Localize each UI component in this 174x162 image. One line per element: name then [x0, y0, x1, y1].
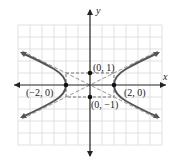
hyperbola-graph: [0, 0, 174, 162]
point-label-2-0: (2, 0): [124, 88, 146, 98]
point-label-0-neg1: (0, −1): [91, 100, 118, 110]
x-axis-label: x: [163, 72, 167, 82]
point-label-neg2-0: (−2, 0): [26, 88, 53, 98]
point-label-0-1: (0, 1): [93, 63, 115, 73]
axes: [14, 10, 166, 156]
y-axis-label: y: [96, 6, 100, 16]
